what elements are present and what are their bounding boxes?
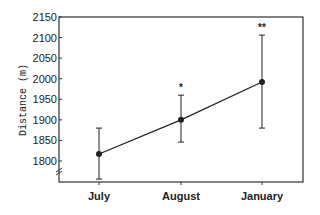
- y-tick-label: 2000: [33, 73, 57, 85]
- y-tick-label: 1950: [33, 93, 57, 105]
- data-point: [178, 117, 184, 123]
- y-tick-label: 1850: [33, 134, 57, 146]
- y-tick-label: 2150: [33, 11, 57, 23]
- x-tick-label: August: [162, 190, 200, 202]
- y-tick-label: 1800: [33, 155, 57, 167]
- significance-marker: *: [179, 82, 183, 93]
- x-tick-label: January: [241, 190, 284, 202]
- data-point: [259, 79, 265, 85]
- x-tick-label: July: [88, 190, 111, 202]
- y-tick-label: 2050: [33, 52, 57, 64]
- chart: 18001850190019502000205021002150 JulyAug…: [0, 0, 320, 215]
- y-axis-label: Distance (m): [18, 64, 29, 136]
- significance-marker: **: [258, 22, 266, 33]
- y-tick-label: 2100: [33, 32, 57, 44]
- data-point: [96, 151, 102, 157]
- y-tick-label: 1900: [33, 114, 57, 126]
